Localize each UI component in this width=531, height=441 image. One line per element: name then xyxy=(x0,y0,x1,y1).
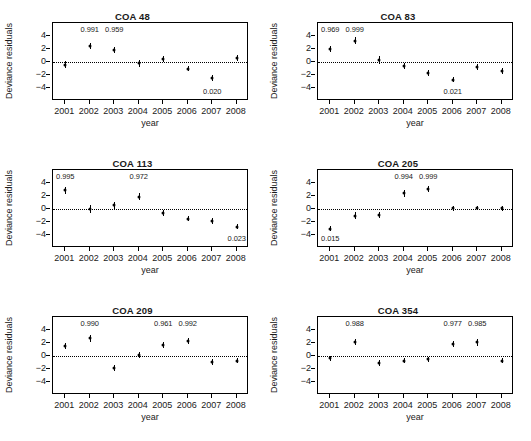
x-tick-mark xyxy=(113,394,114,398)
y-tick-mark xyxy=(46,221,50,222)
plot-inner: 0.9950.9720.023 xyxy=(53,170,247,246)
y-axis-title: Deviance residuals xyxy=(2,169,16,247)
data-point-dot xyxy=(186,67,189,70)
y-tick-mark xyxy=(311,381,315,382)
data-point-dot xyxy=(378,213,381,216)
data-point-dot xyxy=(476,341,479,344)
x-tick-mark xyxy=(501,100,502,104)
x-tick-label: 2003 xyxy=(368,400,388,410)
x-tick-label: 2006 xyxy=(442,400,462,410)
y-tick-label: −2 xyxy=(36,69,46,79)
y-tick-mark xyxy=(46,355,50,356)
y-tick-mark xyxy=(311,87,315,88)
y-tick-label: −2 xyxy=(36,363,46,373)
figure-panel-grid: COA 48Deviance residuals420−2−40.9910.95… xyxy=(0,0,531,441)
x-tick-label: 2001 xyxy=(319,253,339,263)
panel-coa-209: COA 209Deviance residuals420−2−40.9900.9… xyxy=(0,294,265,441)
x-tick-label: 2007 xyxy=(201,400,221,410)
x-tick-mark xyxy=(162,394,163,398)
data-point-dot xyxy=(402,192,405,195)
x-tick-mark xyxy=(211,100,212,104)
x-axis-title: year xyxy=(317,265,513,275)
x-tick-label: 2007 xyxy=(466,253,486,263)
x-tick-mark xyxy=(329,247,330,251)
x-tick-mark xyxy=(138,394,139,398)
x-tick-mark xyxy=(138,100,139,104)
x-tick-label: 2001 xyxy=(54,400,74,410)
y-axis-title: Deviance residuals xyxy=(2,22,16,100)
x-tick-label: 2002 xyxy=(344,253,364,263)
x-tick-label: 2008 xyxy=(491,253,511,263)
x-tick-mark xyxy=(501,247,502,251)
y-tick-mark xyxy=(46,368,50,369)
x-tick-mark xyxy=(354,100,355,104)
zero-reference-line xyxy=(53,209,247,210)
p-value-label: 0.972 xyxy=(130,172,148,181)
p-value-label: 0.992 xyxy=(179,319,197,328)
x-tick-label: 2004 xyxy=(128,400,148,410)
p-value-label: 0.977 xyxy=(444,319,462,328)
x-tick-mark xyxy=(452,394,453,398)
data-point-dot xyxy=(500,359,503,362)
data-point-dot xyxy=(211,220,214,223)
x-tick-mark xyxy=(403,100,404,104)
data-point-dot xyxy=(113,204,116,207)
panel-title: COA 113 xyxy=(0,158,265,169)
p-value-label: 0.999 xyxy=(419,172,437,181)
y-tick-label: −2 xyxy=(36,216,46,226)
y-tick-mark xyxy=(46,35,50,36)
data-point-dot xyxy=(353,214,356,217)
x-tick-label: 2002 xyxy=(79,253,99,263)
x-tick-label: 2007 xyxy=(201,253,221,263)
data-point-dot xyxy=(353,39,356,42)
x-tick-mark xyxy=(476,100,477,104)
p-value-label: 0.969 xyxy=(321,25,339,34)
panel-coa-83: COA 83Deviance residuals420−2−40.9690.99… xyxy=(265,0,531,147)
x-tick-mark xyxy=(162,247,163,251)
data-point-dot xyxy=(64,344,67,347)
data-point-dot xyxy=(162,57,165,60)
x-tick-label: 2005 xyxy=(417,400,437,410)
panel-title: COA 209 xyxy=(0,305,265,316)
x-tick-mark xyxy=(476,247,477,251)
p-value-label: 0.999 xyxy=(346,25,364,34)
zero-reference-line xyxy=(53,356,247,357)
y-tick-mark xyxy=(311,342,315,343)
y-axis-ticks: 420−2−4 xyxy=(289,169,311,247)
data-point-dot xyxy=(88,44,91,47)
zero-reference-line xyxy=(53,62,247,63)
x-tick-label: 2003 xyxy=(103,400,123,410)
x-tick-mark xyxy=(187,247,188,251)
panel-coa-48: COA 48Deviance residuals420−2−40.9910.95… xyxy=(0,0,265,147)
data-point-dot xyxy=(378,59,381,62)
y-tick-mark xyxy=(311,182,315,183)
x-tick-mark xyxy=(427,394,428,398)
x-axis-title: year xyxy=(52,412,248,422)
data-point-dot xyxy=(113,48,116,51)
y-axis-title: Deviance residuals xyxy=(267,22,281,100)
p-value-label: 0.995 xyxy=(56,172,74,181)
y-tick-mark xyxy=(46,48,50,49)
y-tick-mark xyxy=(311,234,315,235)
data-point-dot xyxy=(64,63,67,66)
x-tick-label: 2002 xyxy=(79,106,99,116)
data-point-dot xyxy=(451,78,454,81)
x-tick-mark xyxy=(236,100,237,104)
x-tick-label: 2004 xyxy=(128,253,148,263)
data-point-dot xyxy=(113,366,116,369)
y-tick-label: −2 xyxy=(301,69,311,79)
x-tick-label: 2001 xyxy=(319,106,339,116)
x-tick-label: 2003 xyxy=(368,253,388,263)
x-tick-mark xyxy=(452,100,453,104)
y-tick-mark xyxy=(311,61,315,62)
x-axis-title: year xyxy=(317,412,513,422)
plot-area: 0.9880.9770.985 xyxy=(317,316,513,394)
x-tick-mark xyxy=(378,247,379,251)
data-point-dot xyxy=(500,207,503,210)
x-tick-label: 2004 xyxy=(393,106,413,116)
panel-title: COA 354 xyxy=(265,305,531,316)
x-tick-mark xyxy=(64,394,65,398)
x-tick-label: 2003 xyxy=(103,253,123,263)
plot-area: 0.9910.9590.020 xyxy=(52,22,248,100)
p-value-label: 0.991 xyxy=(81,25,99,34)
